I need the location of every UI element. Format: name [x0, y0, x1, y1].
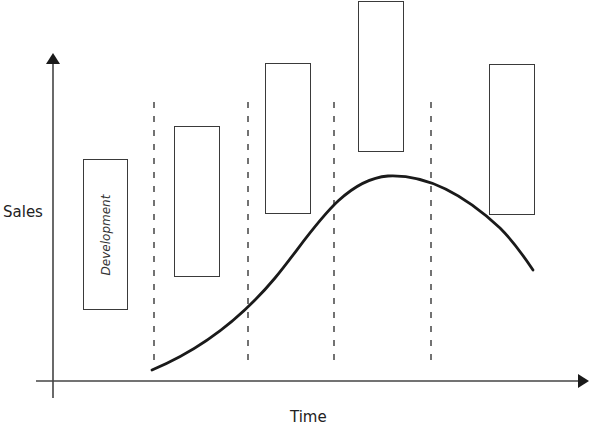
stage-box-2	[174, 126, 220, 277]
y-axis-arrow-icon	[46, 53, 60, 64]
y-axis-label: Sales	[3, 203, 43, 221]
x-axis-arrow-icon	[578, 374, 589, 388]
stage-box-5	[489, 64, 535, 215]
stage-label: Development	[99, 194, 113, 275]
stage-box-4	[358, 1, 404, 152]
stage-box-development: Development	[83, 159, 128, 310]
stage-box-3	[265, 63, 311, 214]
x-axis-label: Time	[290, 408, 327, 426]
